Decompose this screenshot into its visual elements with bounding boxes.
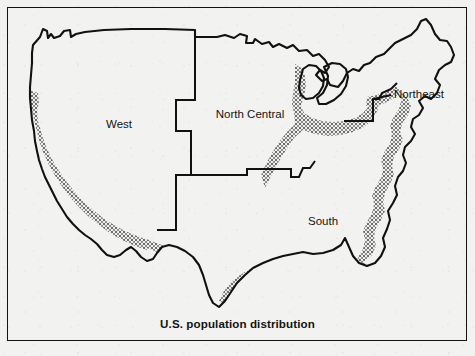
region-label-north-central: North Central	[216, 108, 284, 120]
region-label-south: South	[308, 215, 338, 227]
michigan-peninsula-outline	[317, 63, 348, 104]
density-band-florida	[336, 257, 365, 281]
us-map: West North Central Northeast South	[7, 7, 467, 341]
region-label-west: West	[106, 118, 133, 130]
density-band-gulf-coast	[219, 256, 336, 305]
divider-west-north-central	[157, 30, 195, 230]
region-label-northeast: Northeast	[394, 88, 445, 100]
figure-panel: West North Central Northeast South U.S. …	[0, 0, 475, 356]
figure-caption: U.S. population distribution	[0, 317, 475, 330]
density-band-pacific-coast	[31, 91, 149, 250]
divider-north-central-south	[176, 161, 315, 177]
population-density-bands	[31, 64, 411, 305]
us-map-svg: West North Central Northeast South	[7, 7, 467, 341]
